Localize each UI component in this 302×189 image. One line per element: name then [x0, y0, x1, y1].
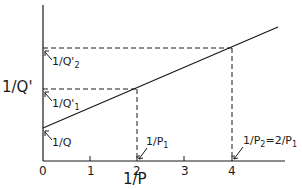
- arrow-q1: [45, 93, 52, 101]
- label-q1-sub: 1: [74, 103, 79, 112]
- tick-label-4: 4: [228, 165, 236, 177]
- plot-canvas: [0, 0, 302, 189]
- label-q2-main: 1/Q': [52, 55, 74, 68]
- label-p2-eq: =2/P: [265, 134, 292, 147]
- label-q-intercept: 1/Q: [52, 137, 71, 148]
- label-q2-prime: 1/Q'2: [52, 56, 79, 70]
- arrow-q2: [45, 52, 52, 60]
- label-p2-main: 1/P: [243, 134, 260, 147]
- arrow-p2: [234, 147, 243, 159]
- tick-label-0: 0: [39, 165, 47, 177]
- label-p1-main: 1/P: [146, 135, 163, 148]
- label-q1-prime: 1/Q'1: [52, 98, 79, 112]
- y-axis-title: 1/Q': [2, 80, 33, 95]
- data-line: [43, 27, 278, 128]
- label-p2-sub2: 1: [292, 140, 297, 149]
- arrow-q: [45, 132, 52, 140]
- label-p1-sub: 1: [163, 141, 168, 150]
- diagram: 1/Q' 1/P 0 1 2 3 4 1/Q'2 1/Q'1 1/Q 1/P1 …: [0, 0, 302, 189]
- label-q2-sub: 2: [74, 61, 79, 70]
- label-p1: 1/P1: [146, 136, 168, 150]
- tick-label-3: 3: [181, 165, 189, 177]
- tick-label-1: 1: [87, 165, 95, 177]
- label-p2: 1/P2=2/P1: [243, 135, 297, 149]
- label-q1-main: 1/Q': [52, 97, 74, 110]
- tick-label-2: 2: [133, 165, 141, 177]
